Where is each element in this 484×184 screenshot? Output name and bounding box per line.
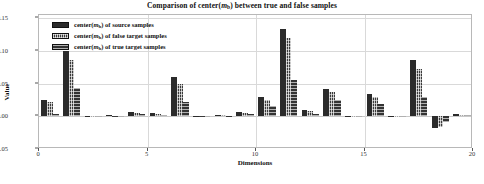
bar-series2-dim9 xyxy=(226,116,232,117)
bar-series2-dim20 xyxy=(465,115,471,116)
legend-label-prefix: center( xyxy=(74,32,93,39)
x-tick-mark xyxy=(38,148,39,151)
gridline-horizontal xyxy=(39,18,471,19)
x-tick-mark xyxy=(364,148,365,151)
zero-line xyxy=(39,116,471,117)
legend-item-1[interactable]: center(mb) of false target samples xyxy=(52,32,167,40)
bar-series2-dim16 xyxy=(378,104,384,116)
chart-root: Comparison of center(mb) between true an… xyxy=(0,0,484,184)
x-tick-mark xyxy=(255,148,256,151)
y-tick-label: 0.05 xyxy=(0,79,8,86)
bar-series2-dim14 xyxy=(335,100,341,116)
y-tick-label: -0.05 xyxy=(0,145,8,152)
legend-item-0[interactable]: center(mb) of source samples xyxy=(52,21,167,29)
x-tick-label: 10 xyxy=(252,150,259,157)
legend-label: center(mb) of false target samples xyxy=(74,32,167,40)
y-tick-label: 0.00 xyxy=(0,112,8,119)
bar-series2-dim12 xyxy=(291,80,297,117)
chart-title: Comparison of center(mb) between true an… xyxy=(0,1,484,10)
legend-label-prefix: center( xyxy=(74,43,93,50)
legend-swatch-icon xyxy=(52,22,69,28)
gridline-horizontal xyxy=(39,84,471,85)
bar-series2-dim19 xyxy=(443,116,449,122)
bar-series2-dim4 xyxy=(118,116,124,117)
gridline-vertical xyxy=(256,15,257,147)
x-tick-mark xyxy=(147,148,148,151)
bar-series2-dim10 xyxy=(248,114,254,116)
gridline-vertical xyxy=(365,15,366,147)
bar-series2-dim6 xyxy=(161,115,167,116)
y-tick-label: 0.15 xyxy=(0,14,8,21)
bar-series2-dim5 xyxy=(140,114,146,117)
bar-series2-dim18 xyxy=(422,97,428,117)
legend-label: center(mb) of true target samples xyxy=(74,43,166,51)
x-tick-label: 5 xyxy=(145,150,148,157)
x-tick-label: 15 xyxy=(360,150,367,157)
legend-label-suffix: ) of source samples xyxy=(101,21,153,28)
x-tick-label: 20 xyxy=(469,150,476,157)
legend-label-suffix: ) of false target samples xyxy=(101,32,166,39)
y-tick-label: 0.10 xyxy=(0,46,8,53)
legend-label: center(mb) of source samples xyxy=(74,21,154,29)
legend-label-prefix: center( xyxy=(74,21,93,28)
bar-series2-dim7 xyxy=(183,102,189,116)
legend-swatch-icon xyxy=(52,33,69,39)
bar-series2-dim13 xyxy=(313,114,319,116)
gridline-horizontal xyxy=(39,51,471,52)
bar-series2-dim3 xyxy=(96,116,102,117)
bar-series2-dim1 xyxy=(53,114,59,116)
x-tick-mark xyxy=(472,148,473,151)
x-tick-label: 0 xyxy=(36,150,39,157)
chart-title-suffix: ) between true and false samples xyxy=(230,1,337,10)
legend-label-suffix: ) of true target samples xyxy=(101,43,165,50)
bar-series2-dim11 xyxy=(270,106,276,116)
bar-series2-dim15 xyxy=(357,116,363,117)
bar-series2-dim2 xyxy=(74,88,80,117)
legend-swatch-icon xyxy=(52,44,69,50)
bar-series2-dim17 xyxy=(400,116,406,117)
chart-title-prefix: Comparison of center( xyxy=(147,1,221,10)
legend-item-2[interactable]: center(mb) of true target samples xyxy=(52,43,167,51)
bar-series2-dim8 xyxy=(205,116,211,117)
x-axis-label: Dimensions xyxy=(38,159,472,167)
chart-legend: center(mb) of source samplescenter(mb) o… xyxy=(52,21,167,51)
